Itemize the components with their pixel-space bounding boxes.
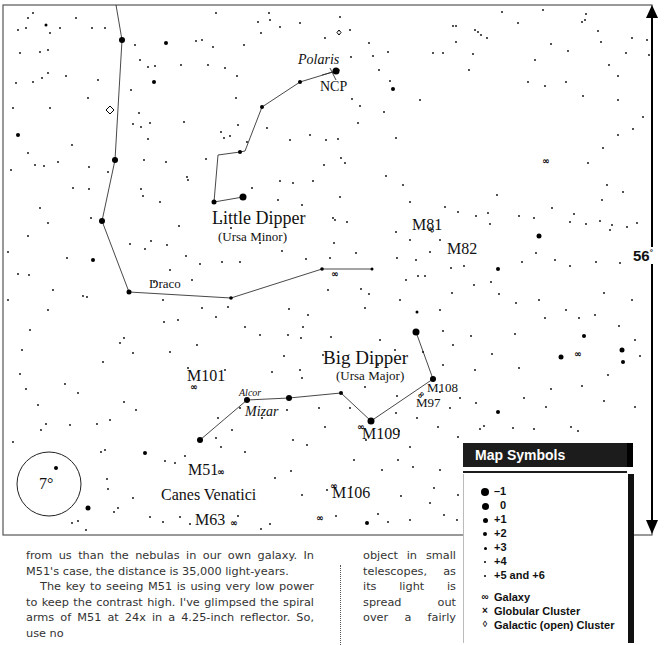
svg-text:∞: ∞: [574, 349, 582, 359]
label-m63: M63: [195, 512, 225, 528]
article-line: object in small: [363, 548, 456, 564]
label-m101: M101: [187, 368, 225, 384]
label-m109: M109: [362, 426, 400, 442]
svg-text:∞: ∞: [542, 156, 550, 166]
star-mag-5-6-icon: [484, 575, 486, 577]
scale-value: 56: [633, 247, 650, 264]
svg-text:∞: ∞: [331, 269, 339, 279]
legend-label: +1: [494, 513, 507, 525]
article-line: over a fairly: [363, 610, 456, 626]
svg-text:∞: ∞: [230, 518, 238, 528]
star-mag-minus1-icon: [481, 488, 489, 496]
legend-label: +5 and +6: [494, 569, 545, 581]
map-symbols-legend: Map Symbols –1 0 +1 +2 +3 +4 +5 and +6: [463, 443, 633, 643]
legend-label: 0: [500, 499, 506, 511]
article-line: spread out: [363, 595, 456, 611]
label-m81: M81: [412, 217, 442, 233]
label-m82: M82: [447, 241, 477, 257]
label-mizar: Mizar: [245, 405, 278, 419]
scale-unit: °: [650, 248, 653, 257]
article-left-column: from us than the nebulas in our own gala…: [26, 548, 314, 641]
svg-text:∞: ∞: [316, 513, 324, 523]
star-mag-3-icon: [484, 547, 487, 550]
legend-label: Galaxy: [494, 591, 530, 603]
legend-label: +3: [494, 541, 507, 553]
article-paragraph: The key to seeing M51 is using very low …: [26, 579, 314, 641]
label-m106: M106: [332, 485, 370, 501]
label-polaris: Polaris: [298, 53, 339, 67]
legend-body: –1 0 +1 +2 +3 +4 +5 and +6 ∞ Galaxy: [463, 474, 634, 643]
label-canes-venatici: Canes Venatici: [161, 487, 256, 503]
legend-label: –1: [494, 485, 506, 497]
star-mag-0-icon: [482, 503, 489, 510]
label-scale-7-degrees: 7°: [39, 476, 53, 492]
star-mag-4-icon: [484, 561, 487, 564]
article-right-column: object in small telescopes, as its light…: [363, 548, 456, 626]
label-m51: M51: [188, 462, 218, 478]
label-draco: Draco: [149, 277, 181, 290]
article-line: its light is: [363, 579, 456, 595]
globular-cluster-icon: ×: [478, 605, 492, 616]
article-paragraph: from us than the nebulas in our own gala…: [26, 548, 314, 579]
star-mag-1-icon: [483, 518, 488, 523]
article-line: telescopes, as: [363, 564, 456, 580]
legend-divider: [463, 467, 627, 473]
legend-title: Map Symbols: [463, 443, 633, 467]
legend-label: +2: [494, 527, 507, 539]
label-ursa-minor: (Ursa Minor): [218, 230, 287, 243]
label-scale-56-degrees: 56°: [632, 247, 654, 264]
label-little-dipper: Little Dipper: [212, 209, 305, 227]
legend-label: Globular Cluster: [494, 605, 580, 617]
label-m97: M97: [416, 396, 441, 409]
label-m108: M108: [427, 381, 458, 394]
label-big-dipper: Big Dipper: [323, 348, 408, 367]
galaxy-icon: ∞: [478, 591, 492, 602]
open-cluster-icon: ◊: [478, 619, 492, 629]
column-divider: [340, 565, 341, 645]
legend-label: +4: [494, 555, 507, 567]
legend-label: Galactic (open) Cluster: [494, 619, 614, 631]
label-ncp: NCP: [320, 80, 347, 94]
star-mag-2-icon: [483, 532, 487, 536]
label-alcor: Alcor: [239, 388, 261, 398]
label-ursa-major: (Ursa Major): [336, 369, 404, 382]
